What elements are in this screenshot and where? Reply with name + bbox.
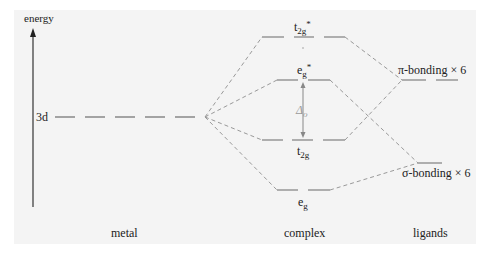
eg-star-label: eg* [297,63,311,79]
ligands-column-label: ligands [413,227,448,239]
delta-o-label: Δo [296,104,308,119]
energy-axis-label: energy [24,13,54,24]
t2g-label: t2g [297,145,309,160]
pi-bonding-label: π-bonding × 6 [398,64,466,76]
correlation-lines [205,37,418,190]
metal-3d-label: 3d [36,111,48,123]
t2g-star-label: t2g* [294,20,311,36]
complex-column-label: complex [284,227,325,239]
metal-column-label: metal [111,227,138,239]
eg-label: eg [298,196,308,211]
mo-diagram-graphic [0,0,491,259]
sigma-bonding-label: σ-bonding × 6 [402,167,471,179]
